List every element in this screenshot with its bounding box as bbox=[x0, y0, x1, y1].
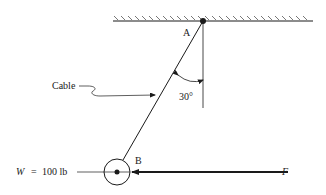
ceiling-hatching bbox=[114, 16, 307, 20]
cable-leader-line bbox=[79, 86, 155, 96]
pulley-b-center bbox=[115, 170, 120, 175]
ceiling-support bbox=[113, 16, 313, 21]
weight-symbol: W bbox=[16, 166, 26, 177]
weight-equals: = bbox=[31, 166, 37, 177]
cable-statics-diagram: 30° A Cable B W = 100 lb F bbox=[0, 0, 326, 195]
angle-label: 30° bbox=[179, 91, 193, 102]
force-f-label: F bbox=[281, 166, 289, 177]
weight-value: 100 lb bbox=[42, 166, 67, 177]
cable-label: Cable bbox=[52, 80, 76, 91]
point-a-label: A bbox=[183, 27, 191, 38]
point-b-label: B bbox=[135, 155, 142, 166]
point-a-pin bbox=[200, 18, 206, 24]
angle-arc bbox=[178, 75, 203, 82]
